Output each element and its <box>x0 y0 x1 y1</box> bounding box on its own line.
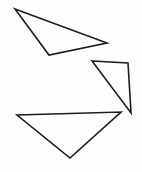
triangles-svg <box>0 0 142 172</box>
figure-canvas <box>0 0 142 172</box>
canvas-background <box>0 0 142 172</box>
